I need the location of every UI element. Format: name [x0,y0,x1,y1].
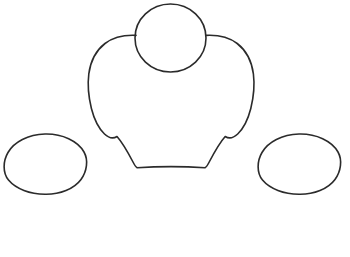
line-drawing-svg: Head circleBody torso outline with shoul… [0,0,350,257]
drawing-canvas: Head circleBody torso outline with shoul… [0,0,350,257]
canvas-background [0,0,350,257]
